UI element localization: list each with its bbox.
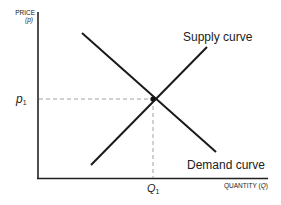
y-axis-title: PRICE (15, 9, 36, 16)
quantity-label: Q1 (147, 182, 160, 195)
demand-curve (82, 33, 216, 152)
x-axis-title: QUANTITY (Q) (224, 182, 268, 190)
price-label: p1 (15, 92, 27, 106)
supply-curve (91, 47, 207, 165)
supply-curve-label: Supply curve (183, 30, 253, 44)
supply-demand-diagram: PRICE (p) p1 Q1 QUANTITY (Q) Supply curv… (0, 0, 281, 205)
equilibrium-point (150, 96, 155, 101)
demand-curve-label: Demand curve (187, 158, 265, 172)
y-axis-symbol: (p) (25, 16, 33, 24)
